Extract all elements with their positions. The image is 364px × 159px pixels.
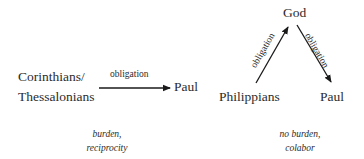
left-edge-label: obligation — [110, 70, 149, 80]
node-thessalonians: Thessalonians — [18, 90, 95, 104]
node-philippians: Philippians — [219, 90, 280, 104]
left-caption-line1: burden, — [47, 127, 167, 141]
node-corinthians: Corinthians/ — [18, 70, 85, 84]
right-caption-line2: colabor — [240, 141, 360, 155]
node-paul-right: Paul — [320, 90, 344, 104]
left-caption-line2: reciprocity — [47, 141, 167, 155]
node-god: God — [283, 6, 306, 20]
node-paul-left: Paul — [174, 80, 198, 94]
right-caption-line1: no burden, — [240, 127, 360, 141]
